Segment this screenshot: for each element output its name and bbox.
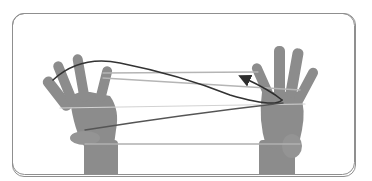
string-figure-illustration <box>0 0 372 181</box>
right-hand <box>250 46 320 180</box>
